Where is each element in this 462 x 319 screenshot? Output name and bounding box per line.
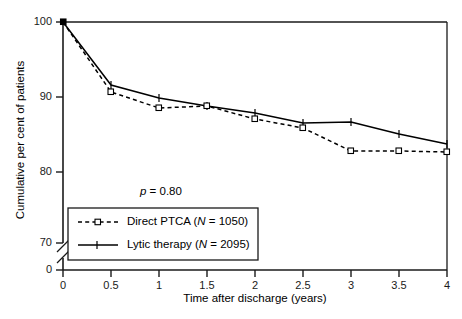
legend-label-lytic-therapy-prefix: Lytic therapy (	[127, 238, 199, 250]
legend-label-direct-ptca-prefix: Direct PTCA (	[127, 215, 197, 227]
legend-label-direct-ptca-n: N	[197, 215, 205, 227]
x-axis-title: Time after discharge (years)	[140, 292, 370, 304]
legend-label-lytic-therapy: Lytic therapy (N = 2095)	[127, 238, 250, 250]
chart-plot-area	[0, 0, 462, 319]
y-tick-label-zero: 0	[8, 263, 52, 275]
marker-open-square	[300, 125, 306, 131]
p-value-number: = 0.80	[146, 185, 182, 197]
x-tick-label-3: 3	[331, 279, 371, 291]
y-tick-label-100: 100	[8, 15, 52, 27]
series-line-lytic-therapy	[63, 22, 447, 144]
marker-origin-square	[61, 19, 67, 25]
x-axis-ticks	[63, 270, 447, 277]
legend-label-lytic-therapy-suffix: = 2095)	[207, 238, 250, 250]
y-tick-label-70: 70	[8, 236, 52, 248]
x-tick-label-1: 1	[139, 279, 179, 291]
x-tick-label-0: 0	[43, 279, 83, 291]
y-axis-title: Cumulative per cent of patients	[14, 45, 26, 235]
marker-open-square	[348, 148, 354, 154]
x-tick-label-0p5: 0.5	[91, 279, 131, 291]
marker-open-square	[396, 148, 402, 154]
legend-label-direct-ptca-suffix: = 1050)	[206, 215, 249, 227]
series-markers-lytic-therapy	[111, 81, 447, 148]
marker-open-square	[204, 103, 210, 109]
marker-open-square	[156, 105, 162, 111]
x-tick-label-1p5: 1.5	[187, 279, 227, 291]
p-value-annotation: p = 0.80	[140, 185, 182, 197]
y-axis-ticks	[56, 22, 63, 270]
x-tick-label-2p5: 2.5	[283, 279, 323, 291]
figure-canvas: 100 90 80 70 0 0 0.5 1 1.5 2 2.5 3 3.5 4…	[0, 0, 462, 319]
marker-open-square	[108, 89, 114, 95]
marker-open-square	[252, 116, 258, 122]
marker-open-square	[444, 149, 450, 155]
x-tick-label-2: 2	[235, 279, 275, 291]
legend-label-lytic-therapy-n: N	[199, 238, 207, 250]
x-tick-label-4: 4	[427, 279, 462, 291]
x-tick-label-3p5: 3.5	[379, 279, 419, 291]
legend-label-direct-ptca: Direct PTCA (N = 1050)	[127, 215, 248, 227]
